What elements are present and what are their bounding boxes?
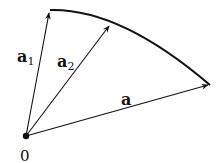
origin-label: 0 [20, 147, 30, 163]
vector-a2 [26, 26, 109, 136]
arc-curve [50, 10, 210, 85]
vector-a [26, 85, 208, 136]
label-a2: a2 [57, 52, 74, 73]
origin-point [23, 133, 29, 139]
label-a: a [121, 90, 131, 109]
vector-diagram: 0 a1 a2 a [0, 0, 219, 163]
label-a1: a1 [17, 47, 34, 68]
vector-a1 [26, 13, 49, 136]
